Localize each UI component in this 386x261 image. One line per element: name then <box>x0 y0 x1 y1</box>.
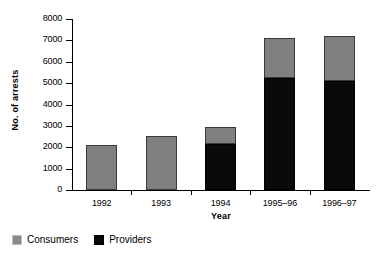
bar-group[interactable] <box>324 19 355 190</box>
bar-group[interactable] <box>146 19 177 190</box>
legend-swatch-consumers <box>12 235 22 245</box>
y-tick-label: 6000 <box>18 57 62 66</box>
x-tick-label: 1994 <box>191 198 251 208</box>
y-tick-label: 5000 <box>18 78 62 87</box>
x-tick-mark <box>250 191 251 195</box>
x-tick-mark <box>131 191 132 195</box>
bar-segment-providers[interactable] <box>264 78 295 190</box>
x-axis-title: Year <box>72 211 370 221</box>
x-tick-label: 1993 <box>131 198 191 208</box>
chart-legend: Consumers Providers <box>12 235 151 245</box>
legend-label-consumers: Consumers <box>27 235 78 245</box>
bar-segment-consumers[interactable] <box>146 136 177 191</box>
y-tick-label: 4000 <box>18 100 62 109</box>
x-tick-mark <box>310 191 311 195</box>
bar-segment-providers[interactable] <box>324 81 355 190</box>
y-tick-label: 7000 <box>18 35 62 44</box>
x-tick-label: 1992 <box>72 198 132 208</box>
bar-segment-consumers[interactable] <box>205 127 236 144</box>
y-tick-label: 3000 <box>18 121 62 130</box>
bar-group[interactable] <box>86 19 117 190</box>
y-tick-label: 0 <box>18 185 62 194</box>
x-tick-label: 1995–96 <box>250 198 310 208</box>
bar-group[interactable] <box>264 19 295 190</box>
legend-item-providers[interactable]: Providers <box>94 235 151 245</box>
x-axis-line <box>72 190 370 191</box>
y-tick-label: 8000 <box>18 14 62 23</box>
legend-label-providers: Providers <box>109 235 151 245</box>
bar-segment-providers[interactable] <box>205 144 236 190</box>
y-tick-mark <box>66 190 72 191</box>
y-tick-label: 2000 <box>18 142 62 151</box>
plot-area <box>72 19 369 190</box>
bar-segment-consumers[interactable] <box>264 38 295 78</box>
bar-group[interactable] <box>205 19 236 190</box>
bar-segment-consumers[interactable] <box>86 145 117 190</box>
x-tick-mark <box>191 191 192 195</box>
legend-swatch-providers <box>94 235 104 245</box>
bar-segment-consumers[interactable] <box>324 36 355 81</box>
chart-figure: No. of arrests 0100020003000400050006000… <box>0 0 386 261</box>
y-tick-label: 1000 <box>18 164 62 173</box>
x-tick-label: 1996–97 <box>309 198 369 208</box>
legend-item-consumers[interactable]: Consumers <box>12 235 78 245</box>
